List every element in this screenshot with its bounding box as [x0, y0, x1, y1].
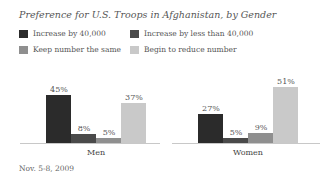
- x-axis-men: [20, 143, 160, 144]
- bar-women-increase-40000: [198, 114, 223, 143]
- bar-label: 51%: [271, 77, 301, 86]
- bar-women-keep-same: [248, 133, 273, 143]
- legend-swatch: [19, 46, 28, 54]
- bar-men-increase-less: [71, 134, 96, 143]
- bar-label: 9%: [246, 123, 276, 132]
- legend-swatch: [130, 30, 139, 38]
- chart-title: Preference for U.S. Troops in Afghanista…: [19, 9, 276, 20]
- x-axis-women: [172, 143, 320, 144]
- legend-label: Increase by less than 40,000: [144, 29, 253, 38]
- legend-item-keep-same: Keep number the same: [19, 45, 121, 54]
- legend-swatch: [130, 46, 139, 54]
- category-label-women: Women: [218, 148, 278, 157]
- legend-swatch: [19, 30, 28, 38]
- bar-label: 45%: [44, 85, 74, 94]
- survey-date: Nov. 5-8, 2009: [19, 164, 74, 173]
- bar-men-reduce: [121, 103, 146, 143]
- bar-label: 27%: [196, 104, 226, 113]
- bar-label: 37%: [119, 93, 149, 102]
- legend-item-increase-40000: Increase by 40,000: [19, 29, 106, 38]
- bar-label: 5%: [94, 128, 124, 137]
- legend-item-reduce: Begin to reduce number: [130, 45, 237, 54]
- bar-women-reduce: [273, 87, 298, 143]
- legend-label: Begin to reduce number: [144, 45, 237, 54]
- category-label-men: Men: [66, 148, 126, 157]
- legend-item-increase-less: Increase by less than 40,000: [130, 29, 253, 38]
- legend-label: Increase by 40,000: [33, 29, 106, 38]
- bar-men-increase-40000: [46, 95, 71, 143]
- legend-label: Keep number the same: [33, 45, 121, 54]
